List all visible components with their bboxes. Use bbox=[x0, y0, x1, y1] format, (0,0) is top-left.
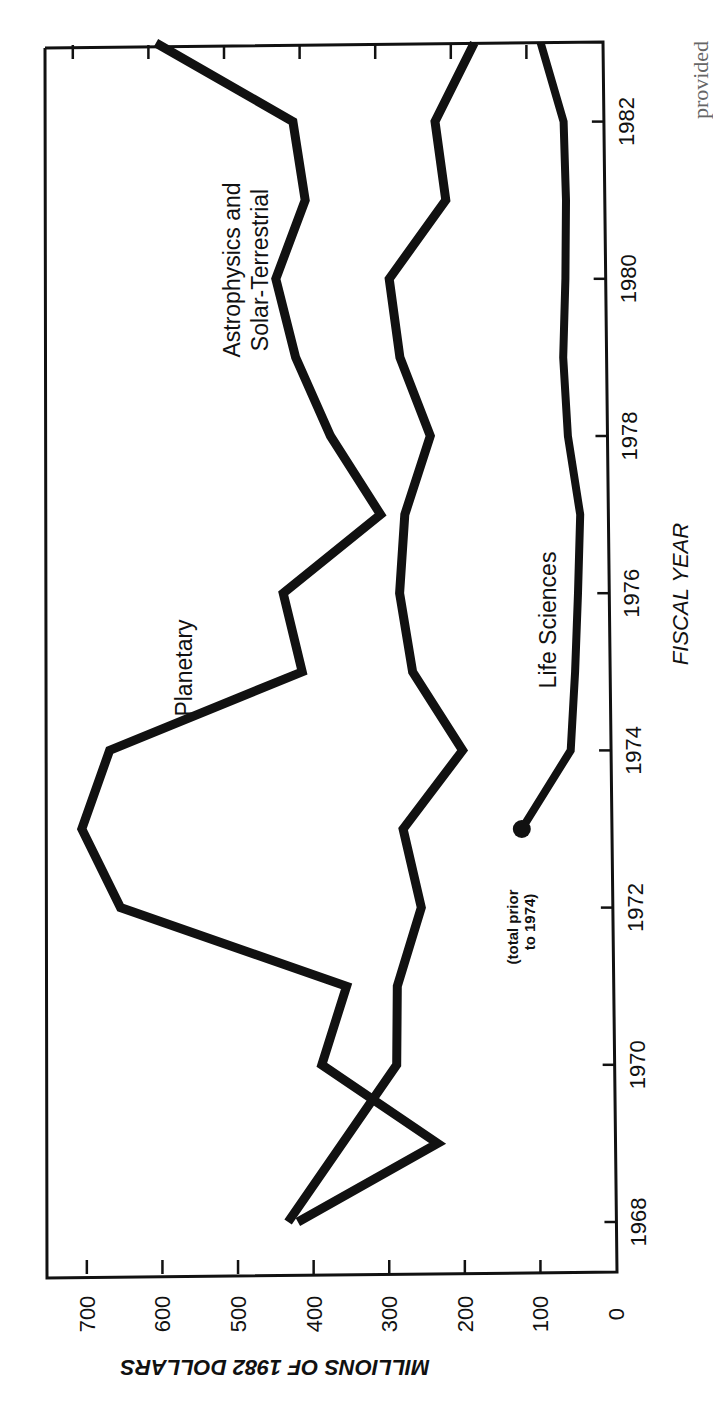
label-planetary: Planetary bbox=[171, 619, 197, 717]
series-line-life-sciences bbox=[522, 43, 580, 829]
y-tick-label: 0 bbox=[604, 1308, 629, 1320]
label-astrophysics-line1: Astrophysics and bbox=[219, 182, 245, 357]
life-sciences-start-marker bbox=[513, 820, 531, 838]
series-line-astrophysics bbox=[288, 43, 474, 1222]
y-tick-label: 100 bbox=[528, 1296, 553, 1333]
label-astrophysics-line2: Solar-Terrestrial bbox=[247, 189, 273, 351]
x-axis-title: FISCAL YEAR bbox=[668, 523, 693, 665]
y-tick-label: 700 bbox=[75, 1296, 100, 1333]
plot-frame bbox=[45, 42, 617, 1278]
x-tick-label: 1968 bbox=[626, 1198, 651, 1247]
y-tick-label: 400 bbox=[302, 1296, 327, 1333]
caption-fragment: provided bbox=[688, 41, 713, 119]
x-tick-label: 1970 bbox=[625, 1040, 650, 1089]
x-tick-label: 1982 bbox=[614, 97, 639, 146]
y-axis-title: MILLIONS OF 1982 DOLLARS bbox=[120, 1355, 430, 1380]
label-life-sciences: Life Sciences bbox=[535, 552, 561, 689]
x-tick-label: 1978 bbox=[617, 412, 642, 461]
x-tick-label: 1976 bbox=[619, 569, 644, 618]
y-tick-label: 600 bbox=[150, 1296, 175, 1333]
note-total-prior-line1: (total prior bbox=[504, 889, 521, 964]
chart-figure: 1968197019721974197619781980198201002003… bbox=[0, 0, 713, 1402]
x-tick-label: 1980 bbox=[616, 254, 641, 303]
series-lines bbox=[82, 43, 580, 1222]
x-tick-label: 1974 bbox=[621, 726, 646, 775]
plot-border bbox=[45, 42, 617, 1278]
y-tick-label: 200 bbox=[453, 1296, 478, 1333]
y-tick-label: 300 bbox=[377, 1296, 402, 1333]
y-tick-label: 500 bbox=[226, 1296, 251, 1333]
x-tick-label: 1972 bbox=[623, 883, 648, 932]
note-total-prior-line2: to 1974) bbox=[521, 894, 538, 951]
